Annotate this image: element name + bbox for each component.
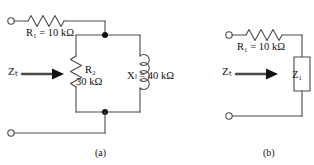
terminal-b-bottom	[226, 113, 232, 119]
circuit-figure: R₁ = 10 kΩ R₂ 30 kΩ Xₗ = 40 kΩ Zₜ R₁ = 1…	[0, 0, 314, 165]
resistor-r1-b-symbol	[246, 30, 282, 41]
label-r2-name: R₂	[85, 65, 96, 76]
terminal-a-top	[8, 18, 14, 24]
caption-a: (a)	[95, 148, 106, 158]
label-r1-circuit-a: R₁ = 10 kΩ	[26, 28, 74, 39]
label-xl: Xₗ = 40 kΩ	[127, 71, 174, 82]
circuit-schematic-svg	[0, 0, 314, 165]
label-z1: Z₁	[292, 70, 302, 81]
terminal-a-bottom	[8, 130, 14, 136]
junction-dot-a-top	[102, 32, 108, 38]
impedance-arrow-a-head	[52, 69, 64, 80]
impedance-arrow-b-head	[266, 69, 278, 80]
label-zt-circuit-a: Zₜ	[8, 66, 18, 77]
label-zt-circuit-b: Zₜ	[222, 66, 232, 77]
terminal-b-top	[226, 32, 232, 38]
caption-b: (b)	[263, 148, 275, 158]
label-r1-circuit-b: R₁ = 10 kΩ	[237, 42, 285, 53]
resistor-r1-a-symbol	[28, 16, 64, 27]
label-r2-value: 30 kΩ	[76, 77, 102, 88]
